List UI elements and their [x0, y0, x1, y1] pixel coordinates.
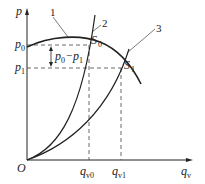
svg-text:0: 0 — [98, 40, 102, 49]
curve-1-leader — [53, 17, 68, 37]
curve-2-system-steep — [27, 15, 95, 160]
origin-label: O — [17, 161, 26, 175]
delta-up-arrowhead-icon — [49, 46, 53, 51]
svg-text:p: p — [14, 37, 21, 51]
x-axis-label: q v — [181, 164, 191, 180]
svg-text:v: v — [187, 171, 191, 180]
delta-p-label: p 0 − p 1 — [54, 49, 83, 65]
pump-curve-diagram: 1 2 3 p O q v p 0 p 1 p 0 − p 1 S 0 S 1 … — [0, 0, 205, 184]
s1-label: S 1 — [124, 58, 135, 74]
svg-text:1: 1 — [21, 67, 25, 76]
curve-3-leader — [127, 29, 155, 53]
svg-text:p: p — [72, 49, 79, 63]
svg-text:S: S — [124, 58, 130, 72]
curve-1-label: 1 — [50, 6, 56, 18]
y-axis-arrow-icon — [25, 8, 29, 15]
qv1-label: q v1 — [112, 164, 126, 180]
curve-3-label: 3 — [156, 22, 162, 34]
p1-label: p 1 — [14, 60, 25, 76]
p0-label: p 0 — [14, 37, 25, 53]
qv0-label: q v0 — [80, 164, 94, 180]
x-axis-arrow-icon — [186, 158, 193, 162]
svg-text:1: 1 — [131, 65, 135, 74]
delta-down-arrowhead-icon — [49, 62, 53, 67]
svg-text:−: − — [66, 49, 72, 61]
s0-label: S 0 — [91, 33, 102, 49]
svg-text:S: S — [91, 33, 97, 47]
svg-text:1: 1 — [79, 56, 83, 65]
curve-3-system-flat — [27, 49, 129, 160]
curve-2-label: 2 — [102, 17, 108, 29]
svg-text:v1: v1 — [118, 171, 126, 180]
y-axis-label: p — [15, 4, 22, 18]
svg-text:v0: v0 — [86, 171, 94, 180]
svg-text:p: p — [14, 60, 21, 74]
svg-text:p: p — [54, 49, 61, 63]
svg-text:0: 0 — [21, 44, 25, 53]
svg-text:0: 0 — [61, 56, 65, 65]
